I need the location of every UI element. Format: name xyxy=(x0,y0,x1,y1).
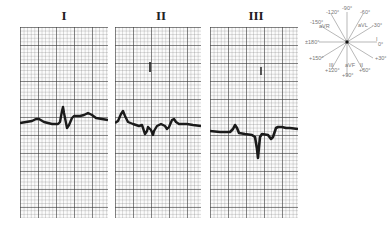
label-0: 0° xyxy=(378,41,383,47)
label-minus-150: -150° xyxy=(310,19,323,25)
label-plus-150: +150° xyxy=(309,55,324,61)
label-minus-60: -60° xyxy=(360,9,370,15)
ecg-trace-lead-iii xyxy=(210,27,298,218)
label-minus-120: -120° xyxy=(326,9,339,15)
label-minus-90: -90° xyxy=(342,5,352,11)
label-plus-60: +60° xyxy=(359,67,371,73)
ecg-strip-lead-iii xyxy=(210,27,298,218)
label-avl: aVL xyxy=(358,22,368,28)
hexaxial-reference-diagram: -90° -60° aVL -30° I 0° +30° II +60° aVF… xyxy=(305,4,392,82)
label-180: ±180° xyxy=(305,39,319,45)
ecg-strip-lead-ii xyxy=(115,27,201,218)
label-minus-30: -30° xyxy=(372,22,382,28)
label-plus-30: +30° xyxy=(375,55,387,61)
ecg-trace-lead-i xyxy=(20,27,108,218)
label-avf: aVF xyxy=(345,62,356,68)
label-plus-90: +90° xyxy=(342,72,354,78)
ecg-trace-lead-ii xyxy=(115,27,201,218)
lead-label-ii: II xyxy=(141,8,181,24)
lead-label-iii: III xyxy=(236,8,276,24)
lead-label-i: I xyxy=(44,8,84,24)
center-point xyxy=(346,41,349,44)
ecg-strip-lead-i xyxy=(20,27,108,218)
label-plus-120: +120° xyxy=(325,67,340,73)
